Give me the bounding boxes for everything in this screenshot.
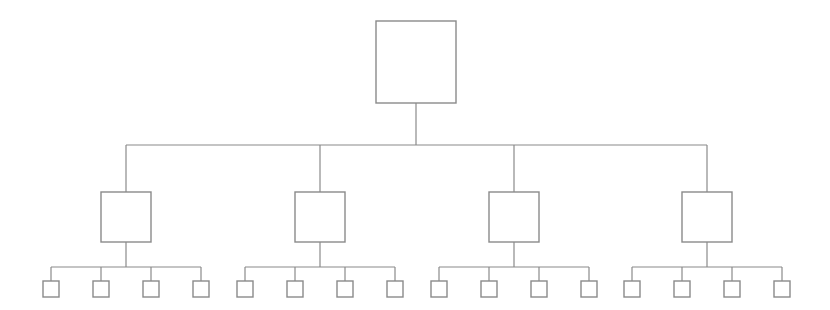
level3-leaf-node-4-2[interactable] <box>674 281 690 297</box>
level3-leaf-node-2-3[interactable] <box>337 281 353 297</box>
level2-node-4[interactable] <box>682 192 732 242</box>
level3-leaf-node-2-1[interactable] <box>237 281 253 297</box>
level3-leaf-node-4-1[interactable] <box>624 281 640 297</box>
level3-leaf-node-3-3[interactable] <box>531 281 547 297</box>
level3-leaf-node-3-2[interactable] <box>481 281 497 297</box>
level2-node-1[interactable] <box>101 192 151 242</box>
level3-leaf-node-1-3[interactable] <box>143 281 159 297</box>
level2-node-2[interactable] <box>295 192 345 242</box>
level2-node-3[interactable] <box>489 192 539 242</box>
connector-layer <box>51 103 782 281</box>
level3-leaf-node-2-2[interactable] <box>287 281 303 297</box>
org-tree-diagram <box>0 0 830 310</box>
level3-leaf-node-3-1[interactable] <box>431 281 447 297</box>
node-layer <box>43 21 790 297</box>
level3-leaf-node-4-4[interactable] <box>774 281 790 297</box>
tree-svg-canvas <box>0 0 830 310</box>
level3-leaf-node-3-4[interactable] <box>581 281 597 297</box>
level3-leaf-node-4-3[interactable] <box>724 281 740 297</box>
level3-leaf-node-1-2[interactable] <box>93 281 109 297</box>
level3-leaf-node-1-4[interactable] <box>193 281 209 297</box>
root-node[interactable] <box>376 21 456 103</box>
level3-leaf-node-2-4[interactable] <box>387 281 403 297</box>
level3-leaf-node-1-1[interactable] <box>43 281 59 297</box>
